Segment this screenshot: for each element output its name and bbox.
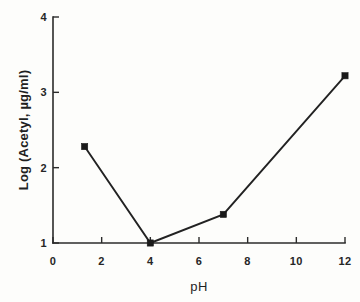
data-point-marker bbox=[82, 143, 88, 149]
chart-figure: 024681012 1234 pH Log (Acetyl, µg/ml) bbox=[0, 0, 360, 302]
data-point-marker bbox=[342, 73, 348, 79]
data-series bbox=[85, 76, 345, 243]
y-axis-tick-label: 3 bbox=[33, 86, 47, 98]
y-axis-tick-label: 4 bbox=[33, 11, 47, 23]
data-point-marker bbox=[220, 211, 226, 217]
x-axis-tick-label: 0 bbox=[50, 255, 57, 267]
x-axis-tick-label: 4 bbox=[147, 255, 154, 267]
axes-group bbox=[53, 17, 345, 243]
y-axis-tick-label: 1 bbox=[33, 237, 47, 249]
data-markers bbox=[82, 73, 349, 246]
x-axis-tick-label: 12 bbox=[338, 255, 351, 267]
x-axis-tick-label: 6 bbox=[196, 255, 203, 267]
x-axis-title: pH bbox=[190, 279, 208, 294]
y-axis-tick-label: 2 bbox=[33, 162, 47, 174]
x-axis-tick-label: 8 bbox=[244, 255, 251, 267]
y-axis-title: Log (Acetyl, µg/ml) bbox=[16, 70, 31, 190]
x-axis-tick-label: 2 bbox=[98, 255, 105, 267]
data-point-marker bbox=[147, 240, 153, 246]
x-axis-tick-label: 10 bbox=[290, 255, 303, 267]
axis-ticks bbox=[53, 17, 345, 243]
series-line bbox=[85, 76, 345, 243]
